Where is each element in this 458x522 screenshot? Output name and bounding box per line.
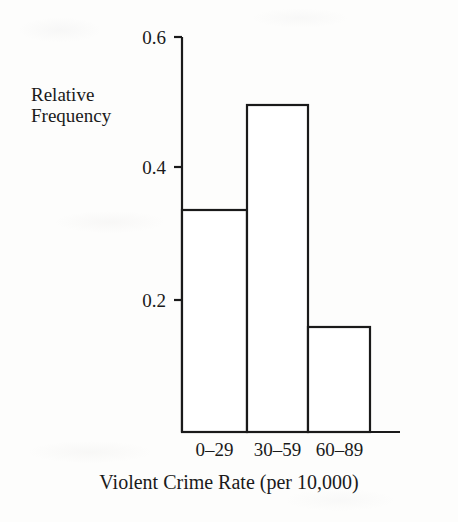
bar-30-59 [247, 105, 308, 432]
histogram-figure: RelativeFrequency 0.6 0.4 0.2 0–29 30–59… [0, 0, 458, 522]
bar-0-29 [182, 210, 247, 432]
plot-area [0, 0, 458, 522]
bar-60-89 [308, 327, 370, 432]
